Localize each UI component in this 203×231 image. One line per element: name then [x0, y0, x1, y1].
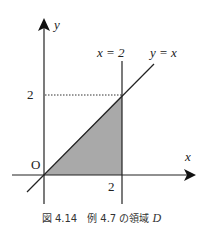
x-axis-label: x	[184, 149, 191, 164]
y-axis-label: y	[52, 17, 60, 32]
caption-variable: D	[153, 211, 162, 225]
line-y-equals-x-label: y = x	[148, 45, 177, 60]
region-diagram: y x O 2 2 x = 2 y = x	[0, 0, 203, 231]
line-x-equals-2-label: x = 2	[96, 45, 125, 60]
caption-text: 図 4.14 例 4.7 の領域	[42, 213, 150, 224]
origin-label: O	[31, 157, 40, 172]
x-tick-label: 2	[108, 179, 115, 194]
figure-caption: 図 4.14 例 4.7 の領域 D	[0, 210, 203, 226]
y-tick-label: 2	[27, 87, 34, 102]
